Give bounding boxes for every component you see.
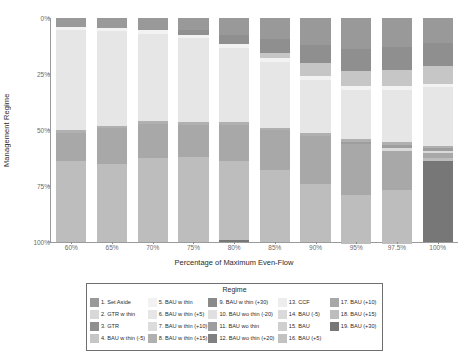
- legend-item[interactable]: 3. GTR: [90, 321, 148, 332]
- bar-75[interactable]: [178, 18, 208, 242]
- bar-65[interactable]: [97, 18, 127, 242]
- bar-segment[interactable]: [56, 30, 86, 130]
- bar-97.5[interactable]: [382, 18, 412, 242]
- bar-segment[interactable]: [97, 18, 127, 28]
- bar-segment[interactable]: [260, 62, 290, 128]
- bar-segment[interactable]: [178, 157, 208, 242]
- legend-item[interactable]: 9. BAU w thin (+30): [208, 297, 277, 308]
- bar-70[interactable]: [138, 18, 168, 242]
- legend-item[interactable]: 7. BAU w thin (+10): [148, 321, 209, 332]
- legend-swatch: [90, 310, 99, 319]
- bar-segment[interactable]: [260, 170, 290, 242]
- legend-item[interactable]: 12. BAU wo thin (+20): [208, 333, 277, 344]
- bar-segment[interactable]: [423, 161, 453, 242]
- bar-segment[interactable]: [219, 18, 249, 35]
- bar-segment[interactable]: [382, 151, 412, 190]
- legend-item[interactable]: 18. BAU (+15): [330, 309, 379, 320]
- legend-item[interactable]: 13. CCF: [278, 297, 330, 308]
- y-axis-tick-mark: [48, 18, 50, 19]
- bar-segment[interactable]: [138, 18, 168, 30]
- legend-swatch: [278, 322, 287, 331]
- bar-segment[interactable]: [382, 47, 412, 69]
- legend-swatch: [90, 322, 99, 331]
- legend-item[interactable]: 2. GTR w thin: [90, 309, 148, 320]
- bar-segment[interactable]: [178, 125, 208, 157]
- bar-segment[interactable]: [300, 136, 330, 184]
- bar-segment[interactable]: [300, 184, 330, 242]
- bar-segment[interactable]: [260, 130, 290, 170]
- bar-segment[interactable]: [382, 190, 412, 244]
- legend-columns: 1. Set Aside2. GTR w thin3. GTR4. BAU w …: [90, 297, 379, 348]
- bar-segment[interactable]: [219, 48, 249, 122]
- bar-segment[interactable]: [382, 18, 412, 47]
- y-axis-tick-mark: [48, 242, 50, 243]
- x-axis-tick-mark: [316, 242, 317, 244]
- legend-label: 3. GTR: [101, 322, 119, 331]
- bar-segment[interactable]: [423, 43, 453, 67]
- bar-segment[interactable]: [423, 87, 453, 145]
- y-axis-tick-mark: [48, 186, 50, 187]
- bar-segment[interactable]: [341, 49, 371, 70]
- bar-95[interactable]: [341, 18, 371, 242]
- bar-segment[interactable]: [219, 161, 249, 239]
- bar-80[interactable]: [219, 18, 249, 242]
- bar-segment[interactable]: [341, 71, 371, 87]
- legend-item[interactable]: 17. BAU (+10): [330, 297, 379, 308]
- legend-label: 1. Set Aside: [101, 298, 131, 307]
- bar-segment[interactable]: [341, 144, 371, 195]
- legend-item[interactable]: 4. BAU w thin (-5): [90, 333, 148, 344]
- bar-segment[interactable]: [260, 18, 290, 39]
- bar-segment[interactable]: [138, 158, 168, 242]
- legend-label: 11. BAU wo thin: [219, 322, 259, 331]
- legend-item[interactable]: 16. BAU (+5): [278, 333, 330, 344]
- bar-segment[interactable]: [56, 18, 86, 27]
- bar-segment[interactable]: [300, 45, 330, 63]
- bar-segment[interactable]: [300, 80, 330, 134]
- bar-90[interactable]: [300, 18, 330, 242]
- legend-item[interactable]: 10. BAU wo thin (-20): [208, 309, 277, 320]
- bar-60[interactable]: [56, 18, 86, 242]
- legend-item[interactable]: 14. BAU (-5): [278, 309, 330, 320]
- bar-segment[interactable]: [178, 18, 208, 30]
- bar-100[interactable]: [423, 18, 453, 242]
- bar-segment[interactable]: [382, 70, 412, 87]
- bar-segment[interactable]: [219, 125, 249, 162]
- bar-segment[interactable]: [97, 31, 127, 125]
- bar-segment[interactable]: [423, 18, 453, 43]
- bar-segment[interactable]: [56, 133, 86, 162]
- bar-segment[interactable]: [260, 39, 290, 52]
- bar-segment[interactable]: [138, 124, 168, 158]
- y-axis-tick-label: 50%: [0, 127, 53, 134]
- legend-label: 12. BAU wo thin (+20): [219, 334, 274, 343]
- y-axis-tick-mark: [48, 130, 50, 131]
- bar-segment[interactable]: [423, 66, 453, 84]
- bar-segment[interactable]: [300, 18, 330, 45]
- bar-segment[interactable]: [138, 34, 168, 121]
- bar-segment[interactable]: [341, 90, 371, 139]
- legend-item[interactable]: 8. BAU w thin (+15): [148, 333, 209, 344]
- bar-segment[interactable]: [382, 90, 412, 143]
- legend-item[interactable]: 11. BAU wo thin: [208, 321, 277, 332]
- x-axis-tick-label: 85%: [268, 244, 281, 251]
- bar-segment[interactable]: [56, 161, 86, 242]
- legend-item[interactable]: 19. BAU (+30): [330, 321, 379, 332]
- legend-item[interactable]: 1. Set Aside: [90, 297, 148, 308]
- bar-segment[interactable]: [219, 35, 249, 44]
- bar-segment[interactable]: [300, 63, 330, 76]
- bar-segment[interactable]: [178, 38, 208, 122]
- legend-swatch: [148, 322, 157, 331]
- bar-segment[interactable]: [341, 195, 371, 244]
- legend-column: 9. BAU w thin (+30)10. BAU wo thin (-20)…: [208, 297, 277, 348]
- y-axis-tick-label: 75%: [0, 183, 53, 190]
- x-axis-tick-mark: [71, 242, 72, 244]
- legend-label: 16. BAU (+5): [289, 334, 322, 343]
- bar-segment[interactable]: [341, 18, 371, 49]
- legend-item[interactable]: 6. BAU w thin (+5): [148, 309, 209, 320]
- x-axis-tick-label: 97.5%: [388, 244, 406, 251]
- bar-segment[interactable]: [97, 128, 127, 163]
- bar-segment[interactable]: [97, 164, 127, 242]
- bar-85[interactable]: [260, 18, 290, 242]
- legend-item[interactable]: 15. BAU: [278, 321, 330, 332]
- legend-item[interactable]: 5. BAU w thin: [148, 297, 209, 308]
- legend-swatch: [278, 334, 287, 343]
